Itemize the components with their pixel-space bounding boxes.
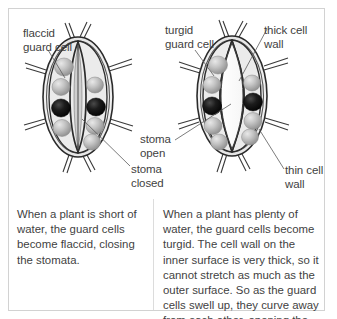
label-thin-cell-wall: thin cell wall	[285, 164, 323, 191]
label-stoma-open: stoma open	[140, 133, 171, 160]
chloroplast	[84, 134, 101, 150]
chloroplast	[203, 77, 221, 94]
chloroplast	[209, 56, 228, 74]
chloroplast	[53, 120, 71, 137]
caption-row: When a plant is short of water, the guar…	[9, 199, 324, 310]
label-stoma-closed: stoma closed	[131, 163, 164, 190]
caption-right: When a plant has plenty of water, the gu…	[154, 199, 324, 310]
nucleus	[87, 98, 106, 116]
leader-line-thin-wall	[259, 129, 284, 169]
label-flaccid-guard-cell: flaccid guard cell	[23, 27, 72, 54]
diagram-area: flaccid guard cell turgid guard cell thi…	[9, 9, 324, 197]
chloroplast	[87, 77, 104, 93]
label-turgid-guard-cell: turgid guard cell	[165, 24, 214, 51]
caption-left: When a plant is short of water, the guar…	[9, 199, 153, 310]
chloroplast	[55, 58, 74, 76]
nucleus	[244, 93, 263, 111]
chloroplast	[52, 79, 70, 96]
chloroplast	[242, 129, 259, 145]
chloroplast	[211, 134, 228, 150]
chloroplast	[244, 113, 262, 130]
chloroplast	[244, 75, 261, 91]
label-thick-cell-wall: thick cell wall	[264, 24, 324, 51]
nucleus	[52, 99, 71, 117]
stomata-figure: flaccid guard cell turgid guard cell thi…	[0, 0, 337, 319]
